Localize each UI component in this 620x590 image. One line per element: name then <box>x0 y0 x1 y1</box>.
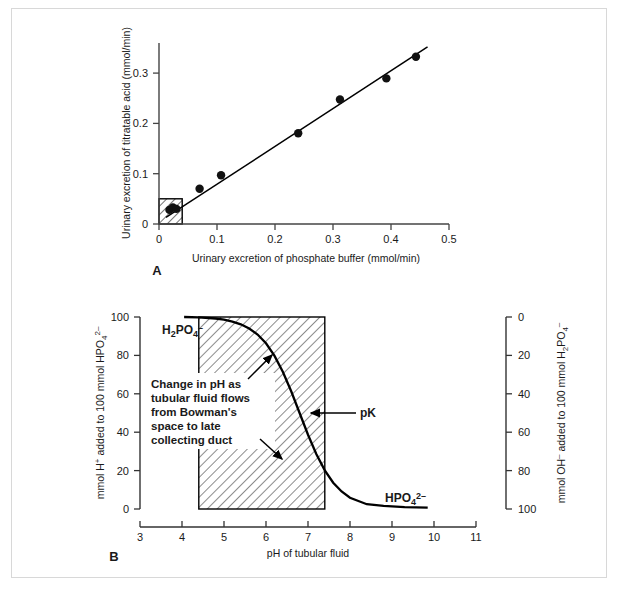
panel-b-y-ticks-right <box>506 317 512 509</box>
panel-a-xtick-2: 0.2 <box>267 233 282 245</box>
svg-text:from Bowman's: from Bowman's <box>151 406 237 418</box>
panel-b-acid-species-label: H2PO4– <box>162 323 203 339</box>
panel-a-ytick-2: 0.2 <box>133 117 148 129</box>
data-point <box>217 171 225 179</box>
panel-b-xtick-6: 9 <box>389 531 395 543</box>
panel-a-ytick-1: 0.1 <box>133 168 148 180</box>
panel-b-ytick-right-2: 40 <box>518 388 530 400</box>
panel-b-xtick-7: 10 <box>428 531 440 543</box>
panel-a: 0 0.1 0.2 0.3 0 0.1 0.2 0.3 0.4 0.5 Urin… <box>17 17 487 282</box>
panel-a-xtick-5: 0.5 <box>441 233 456 245</box>
svg-text:space to late: space to late <box>151 420 221 432</box>
panel-a-ytick-0: 0 <box>142 218 148 230</box>
panel-b-ytick-right-0: 0 <box>518 311 524 323</box>
data-point <box>294 129 302 137</box>
panel-a-xtick-4: 0.4 <box>383 233 398 245</box>
panel-b-ytick-left-2: 40 <box>117 426 129 438</box>
panel-b-ytick-right-1: 20 <box>518 349 530 361</box>
panel-a-xtick-0: 0 <box>156 233 162 245</box>
panel-a-x-axis-title: Urinary excretion of phosphate buffer (m… <box>192 252 420 264</box>
panel-a-y-axis-title: Urinary excretion of titratable acid (mm… <box>120 27 132 239</box>
panel-b-xtick-3: 6 <box>263 531 269 543</box>
panel-b-y-axis-title-right: mmol OH– added to 100 mmol H2PO4– <box>554 322 570 503</box>
panel-b-xtick-0: 3 <box>137 531 143 543</box>
panel-b-xtick-4: 7 <box>305 531 311 543</box>
panel-a-letter: A <box>152 263 162 278</box>
panel-a-y-ticks <box>153 73 159 224</box>
data-point <box>195 185 203 193</box>
figure-frame: 0 0.1 0.2 0.3 0 0.1 0.2 0.3 0.4 0.5 Urin… <box>11 8 607 578</box>
svg-text:tubular fluid flows: tubular fluid flows <box>151 392 250 404</box>
data-point <box>172 205 180 213</box>
panel-b-x-axis-title: pH of tubular fluid <box>267 547 349 559</box>
panel-b-chart: H2PO4– HPO42– pK Change in pH as tubular… <box>82 287 602 572</box>
panel-b-xtick-5: 8 <box>347 531 353 543</box>
panel-a-xtick-3: 0.3 <box>325 233 340 245</box>
panel-a-ytick-3: 0.3 <box>133 67 148 79</box>
panel-b-xtick-8: 11 <box>470 531 481 543</box>
svg-text:Change in pH as: Change in pH as <box>151 378 241 390</box>
data-point <box>412 53 420 61</box>
panel-b-xtick-1: 4 <box>179 531 185 543</box>
panel-b-ytick-right-4: 80 <box>518 465 530 477</box>
panel-b: H2PO4– HPO42– pK Change in pH as tubular… <box>82 287 602 572</box>
panel-b-ytick-right-5: 100 <box>518 503 536 515</box>
panel-a-x-ticks <box>159 224 449 230</box>
panel-b-ytick-left-1: 20 <box>117 465 129 477</box>
panel-b-y-axis-title-left: mmol H+ added to 100 mmol HPO42– <box>93 326 109 499</box>
panel-b-letter: B <box>109 549 118 564</box>
panel-b-ytick-left-4: 80 <box>117 349 129 361</box>
panel-b-y-ticks-left <box>134 317 140 509</box>
data-point <box>382 74 390 82</box>
panel-b-xtick-2: 5 <box>221 531 227 543</box>
panel-b-band-note: Change in pH as tubular fluid flows from… <box>151 373 275 449</box>
panel-b-ytick-left-3: 60 <box>117 388 129 400</box>
svg-text:collecting duct: collecting duct <box>151 434 232 446</box>
data-point <box>336 95 344 103</box>
panel-b-ytick-right-3: 60 <box>518 426 530 438</box>
panel-a-chart: 0 0.1 0.2 0.3 0 0.1 0.2 0.3 0.4 0.5 Urin… <box>17 17 487 282</box>
panel-b-x-ticks <box>140 521 476 527</box>
panel-b-ytick-left-5: 100 <box>111 311 129 323</box>
panel-b-pk-label: pK <box>360 406 376 420</box>
panel-a-xtick-1: 0.1 <box>209 233 224 245</box>
panel-b-ytick-left-0: 0 <box>123 503 129 515</box>
panel-b-base-species-label: HPO42– <box>385 491 426 507</box>
